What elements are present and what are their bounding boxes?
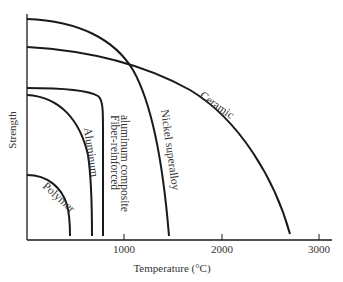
x-tick-label-3000: 3000 bbox=[308, 243, 331, 255]
x-tick-label-2000: 2000 bbox=[211, 243, 234, 255]
strength-temperature-chart: 1000 2000 3000 Temperature (°C) Strength… bbox=[0, 0, 343, 282]
curve-nickel-superalloy bbox=[27, 19, 169, 236]
label-aluminum: Aluminum bbox=[82, 127, 101, 178]
x-axis-label: Temperature (°C) bbox=[133, 262, 211, 275]
x-tick-label-1000: 1000 bbox=[113, 243, 136, 255]
y-axis-label: Strength bbox=[6, 111, 18, 149]
label-fiber-line2: aluminum composite bbox=[118, 115, 131, 212]
label-ceramic: Ceramic bbox=[198, 89, 237, 121]
curve-aluminum bbox=[27, 95, 92, 236]
label-polymer: Polymer bbox=[40, 180, 78, 216]
label-nickel-superalloy: Nickel superalloy bbox=[158, 109, 182, 192]
